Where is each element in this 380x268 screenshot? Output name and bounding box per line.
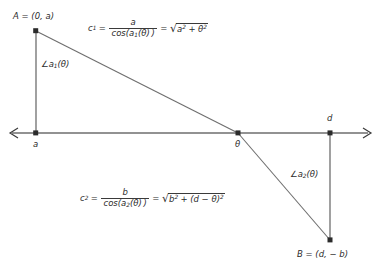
formula-c2-fraction: b cos(a2(θ) ) bbox=[100, 188, 149, 209]
formula-c2-radicand-term2: (d − θ) bbox=[190, 194, 220, 204]
angle-label-a2: ∠a2(θ) bbox=[290, 170, 318, 180]
formula-c2-den-arg: (θ) ) bbox=[130, 198, 147, 208]
angle-arg-lower: (θ) bbox=[307, 169, 319, 179]
formula-c2-den-fn: cos( bbox=[103, 198, 121, 208]
point-marker-B bbox=[328, 237, 333, 242]
angle-symbol-lower: ∠ bbox=[290, 169, 298, 179]
formula-c1-radicand-term2-pow: 2 bbox=[203, 24, 207, 30]
formula-c1-numerator: a bbox=[128, 18, 139, 28]
formula-c2-radicand-plus: + bbox=[178, 194, 190, 204]
formula-c2-equals-1: = bbox=[88, 194, 100, 203]
formula-c1-fraction: a cos(a1(θ) ) bbox=[108, 18, 157, 39]
point-marker-theta bbox=[236, 130, 241, 135]
point-marker-A bbox=[33, 28, 38, 33]
geometry-diagram: A = (0, a) B = (d, − b) a θ d ∠a1(θ) ∠a2… bbox=[0, 0, 380, 268]
formula-c1-equals-2: = bbox=[158, 24, 170, 33]
formula-c2: c2 = b cos(a2(θ) ) = √b2+(d − θ)2 bbox=[80, 188, 225, 209]
point-marker-d bbox=[328, 130, 333, 135]
radical-sign-icon: √ bbox=[170, 22, 177, 33]
point-label-A: A = (0, a) bbox=[13, 12, 54, 21]
point-label-B: B = (d, − b) bbox=[297, 250, 348, 259]
formula-c1-equals-1: = bbox=[96, 24, 108, 33]
point-label-theta: θ bbox=[235, 140, 240, 149]
point-label-d: d bbox=[327, 114, 332, 123]
point-label-origin-a: a bbox=[33, 140, 38, 149]
angle-arg-upper: (θ) bbox=[58, 59, 70, 69]
point-marker-origin bbox=[33, 130, 38, 135]
formula-c2-radicand-term2-pow: 2 bbox=[220, 194, 224, 200]
formula-c2-numerator: b bbox=[119, 188, 130, 198]
formula-c1-den-arg: (θ) ) bbox=[138, 28, 155, 38]
angle-symbol-upper: ∠ bbox=[41, 59, 49, 69]
formula-c2-equals-2: = bbox=[150, 194, 162, 203]
segment-c1-hypotenuse bbox=[36, 31, 238, 133]
radical-sign-icon: √ bbox=[162, 192, 169, 203]
formula-c1-radical: √a2+θ2 bbox=[170, 23, 208, 34]
formula-c2-denominator: cos(a2(θ) ) bbox=[101, 198, 148, 209]
formula-c1-radicand: a2+θ2 bbox=[176, 23, 208, 34]
segment-c2-hypotenuse bbox=[238, 133, 330, 240]
formula-c1-den-fn: cos( bbox=[111, 28, 129, 38]
formula-c1: c1 = a cos(a1(θ) ) = √a2+θ2 bbox=[88, 18, 208, 39]
angle-label-a1: ∠a1(θ) bbox=[41, 60, 69, 70]
formula-c1-radicand-plus: + bbox=[186, 24, 198, 34]
formula-c2-radical: √b2+(d − θ)2 bbox=[162, 193, 225, 204]
diagram-canvas bbox=[0, 0, 380, 268]
formula-c1-denominator: cos(a1(θ) ) bbox=[109, 28, 156, 39]
formula-c2-radicand: b2+(d − θ)2 bbox=[168, 193, 225, 204]
